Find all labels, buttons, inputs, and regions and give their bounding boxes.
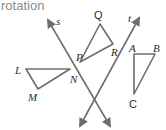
vertex-l-label: L: [14, 64, 21, 76]
vertex-n-label: N: [69, 73, 78, 85]
vertex-m-label: M: [27, 91, 38, 103]
vertex-q-label: Q: [94, 9, 103, 21]
vertex-c-label: C: [129, 98, 137, 110]
line-s: [48, 20, 110, 126]
triangle-pqr: [80, 24, 113, 62]
vertex-b-label: B: [153, 42, 160, 54]
line-t-label: t: [128, 12, 132, 24]
vertex-p-label: P: [75, 51, 83, 63]
triangle-lmn: [26, 69, 70, 89]
rotation-diagram: rotation s t Q R P L N M A B C: [0, 0, 166, 130]
triangle-abc: [134, 54, 155, 94]
vertex-r-label: R: [110, 46, 118, 58]
diagram-title: rotation: [1, 0, 44, 13]
line-s-label: s: [56, 15, 60, 27]
vertex-a-label: A: [128, 42, 136, 54]
